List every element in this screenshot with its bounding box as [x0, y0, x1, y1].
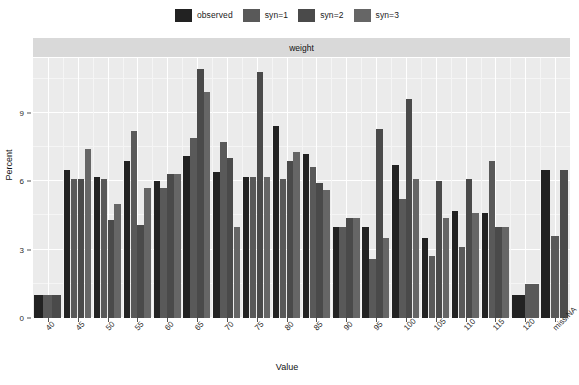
x-tick-label: 90: [342, 320, 355, 333]
bar: [482, 213, 488, 318]
bar: [213, 172, 219, 318]
bar: [114, 204, 120, 318]
bar: [339, 227, 345, 318]
y-tick-label: 6: [20, 177, 24, 186]
bar: [443, 218, 449, 318]
x-tick-label: 75: [253, 320, 266, 333]
legend-swatch-icon: [175, 9, 192, 22]
panel-strip-label: weight: [289, 43, 314, 53]
bar: [333, 227, 339, 318]
legend-label: syn=3: [376, 10, 399, 20]
legend-label: observed: [197, 10, 233, 20]
bar: [316, 183, 322, 318]
bar: [124, 161, 130, 318]
x-tick-label: 80: [283, 320, 296, 333]
bar: [167, 174, 173, 318]
y-tick-mark: [27, 249, 31, 250]
x-tick-label: 65: [193, 320, 206, 333]
legend-entry-syn-3: syn=3: [354, 9, 399, 22]
bar: [227, 158, 233, 318]
bar: [94, 177, 100, 318]
bar: [429, 256, 435, 318]
legend-swatch-icon: [243, 9, 260, 22]
y-axis-label: Percent: [4, 130, 14, 200]
bar: [43, 295, 52, 318]
bar: [101, 179, 107, 318]
y-tick-mark: [27, 181, 31, 182]
bar: [323, 190, 329, 318]
panel-strip: weight: [33, 38, 570, 57]
bar: [264, 177, 270, 318]
bar: [64, 170, 70, 318]
y-tick-mark: [27, 112, 31, 113]
bar: [392, 165, 398, 318]
y-tick-label: 0: [20, 314, 24, 323]
bar: [399, 199, 405, 318]
bar: [154, 181, 160, 318]
bar: [160, 188, 166, 318]
x-tick-label: 115: [491, 317, 506, 332]
bar: [489, 161, 495, 318]
bar: [436, 181, 442, 318]
bar: [85, 149, 91, 318]
bar: [293, 152, 299, 318]
bar: [273, 126, 279, 318]
x-tick-label: 55: [133, 320, 146, 333]
bar: [303, 154, 309, 318]
bar: [34, 295, 43, 318]
bar: [560, 170, 569, 318]
x-axis: 404550556065707580859095100105110115120m…: [33, 318, 570, 358]
bar: [287, 161, 293, 318]
bar: [234, 227, 240, 318]
bar: [137, 225, 143, 319]
x-tick-label: 85: [312, 320, 325, 333]
bar: [413, 179, 419, 318]
bar: [174, 174, 180, 318]
bar: [310, 167, 316, 318]
legend-entry-syn-1: syn=1: [243, 9, 288, 22]
bar: [512, 295, 525, 318]
bars-layer: [33, 58, 570, 318]
bar: [108, 220, 114, 318]
bar: [495, 227, 501, 318]
bar: [452, 211, 458, 318]
bar: [346, 218, 352, 318]
legend-label: syn=1: [265, 10, 288, 20]
bar: [472, 213, 478, 318]
x-tick-label: 120: [521, 317, 537, 333]
bar: [204, 92, 210, 318]
x-axis-label: Value: [0, 362, 574, 372]
bar: [250, 177, 256, 318]
bar: [280, 179, 286, 318]
legend-label: syn=2: [320, 10, 343, 20]
bar: [459, 247, 465, 318]
x-tick-label: 40: [44, 320, 57, 333]
plot-area: [33, 58, 570, 318]
bar: [541, 170, 550, 318]
bar: [183, 156, 189, 318]
chart-legend: observedsyn=1syn=2syn=3: [0, 4, 574, 26]
bar: [383, 238, 389, 318]
bar: [406, 99, 412, 318]
bar: [52, 295, 61, 318]
x-tick-label: 110: [462, 317, 477, 332]
bar: [257, 72, 263, 318]
x-tick-label: 100: [402, 317, 418, 333]
bar: [525, 284, 538, 318]
bar: [78, 179, 84, 318]
legend-entry-observed: observed: [175, 9, 233, 22]
x-tick-label: 105: [432, 317, 448, 333]
bar: [197, 69, 203, 318]
bar: [220, 142, 226, 318]
legend-swatch-icon: [298, 9, 315, 22]
y-tick-mark: [27, 318, 31, 319]
bar: [551, 236, 560, 318]
bar: [243, 177, 249, 318]
x-tick-label: 95: [372, 320, 385, 333]
bar: [422, 238, 428, 318]
x-tick-label: 70: [223, 320, 236, 333]
bar: [376, 129, 382, 318]
bar: [131, 131, 137, 318]
bar: [353, 218, 359, 318]
